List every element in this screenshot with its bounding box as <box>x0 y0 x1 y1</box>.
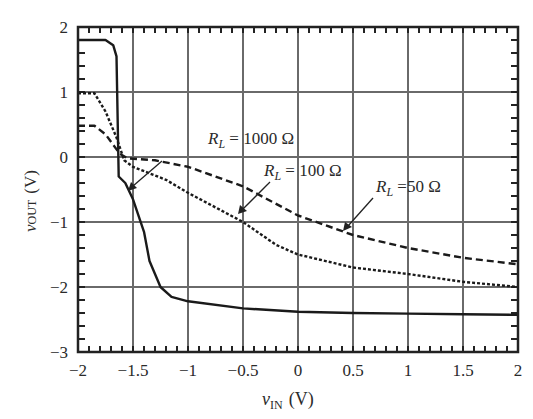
x-tick-label: 1 <box>404 361 413 380</box>
annotation-100-ohm: RL = 100 Ω <box>238 161 342 214</box>
x-tick-label: 0.5 <box>342 361 363 380</box>
x-axis-label: vIN(V) <box>262 389 314 412</box>
y-tick-label: 1 <box>60 83 69 102</box>
chart: −2−1.5−1−0.500.511.52210−1−2−3 RL = 1000… <box>0 0 533 419</box>
x-tick-label: −0.5 <box>228 361 259 380</box>
svg-text:vOUT(V): vOUT(V) <box>21 170 40 232</box>
y-tick-label: −2 <box>50 278 68 297</box>
y-tick-label: −3 <box>50 343 68 362</box>
y-tick-label: 0 <box>60 148 69 167</box>
arrow-line <box>133 161 162 186</box>
tick-labels: −2−1.5−1−0.500.511.52210−1−2−3 <box>50 18 522 380</box>
arrow-line <box>243 182 270 209</box>
svg-text:RL =50 Ω: RL =50 Ω <box>375 177 441 199</box>
x-tick-label: −1.5 <box>118 361 149 380</box>
y-tick-label: 2 <box>60 18 69 37</box>
x-tick-label: −1 <box>179 361 197 380</box>
x-tick-label: 0 <box>294 361 303 380</box>
svg-text:vIN(V): vIN(V) <box>262 389 314 412</box>
y-axis-label: vOUT(V) <box>21 170 40 232</box>
y-tick-label: −1 <box>50 213 68 232</box>
grid-lines <box>78 27 518 352</box>
svg-text:RL = 100 Ω: RL = 100 Ω <box>263 161 342 183</box>
x-tick-label: −2 <box>69 361 87 380</box>
x-tick-label: 1.5 <box>452 361 473 380</box>
svg-text:RL = 1000 Ω: RL = 1000 Ω <box>207 129 294 151</box>
x-tick-label: 2 <box>514 361 523 380</box>
